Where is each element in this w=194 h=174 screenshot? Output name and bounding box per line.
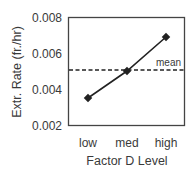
y-tick-label: 0.002 <box>32 119 62 133</box>
x-tick-label: low <box>79 136 97 150</box>
y-tick-label: 0.004 <box>32 83 62 97</box>
y-axis-title: Extr. Rate (fr./hr) <box>10 26 24 118</box>
y-tick-label: 0.008 <box>32 11 62 25</box>
x-axis-title: Factor D Level <box>86 154 167 168</box>
mean-label: mean <box>156 57 181 68</box>
x-tick-label: high <box>155 136 178 150</box>
x-tick-label: med <box>115 136 138 150</box>
chart: 0.008 0.006 0.004 0.002 Extr. Rate (fr./… <box>0 0 194 174</box>
y-tick-label: 0.006 <box>32 47 62 61</box>
